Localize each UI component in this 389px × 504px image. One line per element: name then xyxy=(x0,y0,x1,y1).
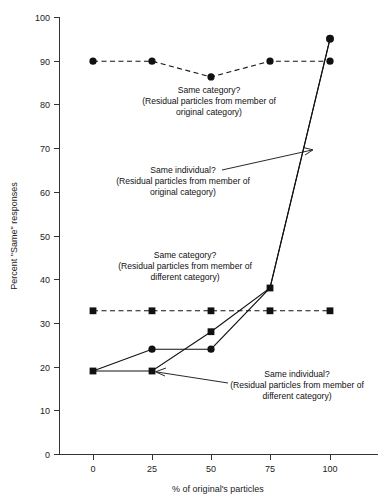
data-point xyxy=(89,58,96,65)
annotation-line-2: (Residual particles from member of xyxy=(142,96,276,106)
y-tick-label-60: 60 xyxy=(40,188,50,198)
line-chart: 100 90 80 70 60 50 40 30 20 10 0 Percent… xyxy=(0,0,389,504)
data-point xyxy=(207,346,214,353)
data-point xyxy=(266,58,273,65)
x-tick-label-0: 0 xyxy=(90,464,95,474)
x-axis: 0 25 50 75 100 % of original's particles xyxy=(60,455,379,495)
annotation-line-3: different category) xyxy=(150,272,219,282)
x-axis-title: % of original's particles xyxy=(172,484,264,494)
annotation-line-3: original category) xyxy=(176,107,242,117)
y-tick-label-50: 50 xyxy=(40,232,50,242)
y-tick-label-100: 100 xyxy=(35,13,50,23)
data-point xyxy=(208,307,215,314)
data-point xyxy=(208,328,215,335)
annotation-line-1: Same category? xyxy=(154,250,217,260)
annotation-line-2: (Residual particles from member of xyxy=(116,176,250,186)
data-point xyxy=(148,58,155,65)
data-point xyxy=(326,58,333,65)
chart-figure: 100 90 80 70 60 50 40 30 20 10 0 Percent… xyxy=(0,0,389,504)
x-tick-label-75: 75 xyxy=(265,464,275,474)
data-point xyxy=(90,307,97,314)
y-tick-label-90: 90 xyxy=(40,57,50,67)
annotation-arrow-icon xyxy=(156,368,229,383)
annotation-same-category-different: Same category? (Residual particles from … xyxy=(118,250,252,282)
x-tick-label-25: 25 xyxy=(147,464,157,474)
data-point xyxy=(327,307,334,314)
y-tick-label-10: 10 xyxy=(40,406,50,416)
x-tick-label-100: 100 xyxy=(322,464,337,474)
annotation-same-category-original: Same category? (Residual particles from … xyxy=(142,85,276,117)
x-tick-label-50: 50 xyxy=(206,464,216,474)
y-tick-label-30: 30 xyxy=(40,319,50,329)
data-point xyxy=(267,307,274,314)
data-point xyxy=(207,73,214,80)
y-axis-title: Percent "Same" responses xyxy=(9,182,19,290)
annotation-line-2: (Residual particles from member of xyxy=(230,380,364,390)
data-point xyxy=(148,346,155,353)
series-same-category-different xyxy=(90,307,334,314)
data-point xyxy=(326,35,334,43)
y-tick-label-20: 20 xyxy=(40,363,50,373)
y-tick-label-70: 70 xyxy=(40,144,50,154)
y-tick-label-40: 40 xyxy=(40,275,50,285)
annotation-line-1: Same individual? xyxy=(264,369,330,379)
series-same-category-original xyxy=(89,58,333,81)
y-tick-label-80: 80 xyxy=(40,100,50,110)
annotation-line-3: different category) xyxy=(262,391,331,401)
annotation-line-2: (Residual particles from member of xyxy=(118,261,252,271)
annotation-same-individual-original: Same individual? (Residual particles fro… xyxy=(116,148,313,198)
annotation-same-individual-different: Same individual? (Residual particles fro… xyxy=(156,368,365,401)
data-point xyxy=(149,307,156,314)
annotation-line-1: Same individual? xyxy=(150,165,216,175)
y-tick-label-0: 0 xyxy=(45,450,50,460)
data-point xyxy=(149,368,156,375)
annotation-line-1: Same category? xyxy=(178,85,241,95)
y-axis: 100 90 80 70 60 50 40 30 20 10 0 Percent… xyxy=(9,13,60,460)
annotation-line-3: original category) xyxy=(150,187,216,197)
